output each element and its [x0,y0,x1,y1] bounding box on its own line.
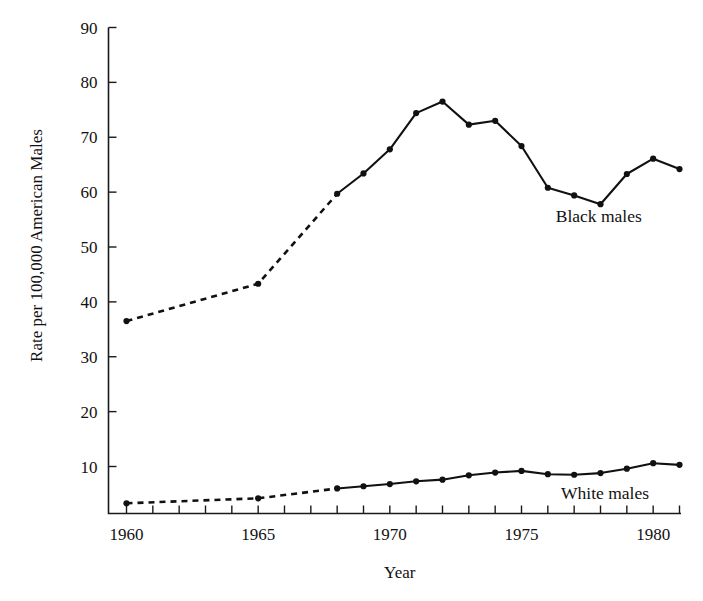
x-tick-label-1965: 1965 [241,525,275,544]
data-point [439,477,445,483]
data-point [123,318,129,324]
data-point [413,478,419,484]
x-tick-label-1975: 1975 [505,525,539,544]
data-point [676,166,682,172]
series-1-dashed-segment [127,488,338,503]
x-tick-label-1980: 1980 [636,525,670,544]
data-point [439,98,445,104]
data-point [360,170,366,176]
y-tick-label-10: 10 [81,458,98,477]
series-label-black-males: Black males [556,206,642,226]
y-tick-label-20: 20 [81,403,98,422]
data-point [518,468,524,474]
data-point [413,110,419,116]
series-0-solid-segment [337,102,679,205]
data-point [334,485,340,491]
chart-series [127,102,680,504]
data-point [676,462,682,468]
data-point [360,483,366,489]
data-point [255,495,261,501]
data-point [650,156,656,162]
data-point [466,472,472,478]
x-tick-label-1960: 1960 [110,525,144,544]
data-point [624,171,630,177]
y-tick-label-80: 80 [81,73,98,92]
data-point [492,469,498,475]
data-point [334,191,340,197]
data-point [255,281,261,287]
data-point [387,481,393,487]
data-point [571,192,577,198]
data-point [123,500,129,506]
x-tick-label-1970: 1970 [373,525,407,544]
data-point [492,118,498,124]
data-point [571,472,577,478]
data-point [624,466,630,472]
series-0-dashed-segment [127,194,338,321]
x-axis-title: Year [384,563,416,582]
chart-markers [123,98,682,506]
y-tick-label-40: 40 [81,293,98,312]
y-tick-label-60: 60 [81,183,98,202]
chart-ticks [109,28,680,514]
y-tick-label-30: 30 [81,348,98,367]
data-point [597,470,603,476]
data-point [387,146,393,152]
data-point [650,460,656,466]
chart-page: 10203040506070809019601965197019751980 B… [0,0,703,601]
data-point [545,471,551,477]
data-point [466,122,472,128]
chart-axes [109,28,682,514]
series-label-white-males: White males [561,483,649,503]
chart-series-labels: Black malesWhite males [556,206,649,503]
data-point [518,143,524,149]
chart-tick-labels: 10203040506070809019601965197019751980 [81,19,671,544]
y-tick-label-90: 90 [81,19,98,38]
data-point [545,185,551,191]
y-tick-label-70: 70 [81,128,98,147]
line-chart: 10203040506070809019601965197019751980 B… [0,0,703,601]
y-axis-title: Rate per 100,000 American Males [27,129,46,362]
y-tick-label-50: 50 [81,238,98,257]
